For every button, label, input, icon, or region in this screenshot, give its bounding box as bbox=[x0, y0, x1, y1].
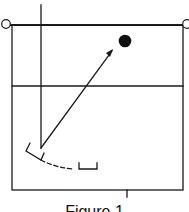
ball-icon bbox=[119, 35, 132, 48]
figure-caption: Figure 1 bbox=[0, 203, 189, 212]
arrow-head-icon bbox=[106, 49, 113, 57]
player-end-marker bbox=[79, 163, 97, 169]
left-post-icon bbox=[2, 20, 11, 29]
movement-path bbox=[41, 160, 74, 169]
pass-arrow bbox=[41, 51, 112, 148]
right-post-icon bbox=[183, 20, 189, 29]
court-diagram bbox=[0, 0, 189, 212]
